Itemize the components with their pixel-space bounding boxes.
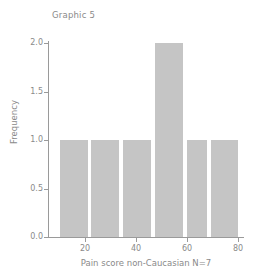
y-tick-label: 2.0 [19, 38, 43, 47]
histogram-bar [155, 43, 183, 237]
plot-area: 0.00.51.01.52.0 20406080 Frequency Pain … [0, 0, 260, 279]
y-tick [44, 140, 48, 141]
x-tick [136, 238, 137, 242]
x-tick-label: 80 [226, 244, 250, 253]
x-tick [187, 238, 188, 242]
y-axis-line [48, 41, 49, 238]
histogram-bar [211, 140, 238, 237]
histogram-bar [91, 140, 119, 237]
y-tick-label: 0.5 [19, 184, 43, 193]
x-tick-label: 40 [124, 244, 148, 253]
y-tick [44, 237, 48, 238]
histogram-bar [60, 140, 88, 237]
x-axis-title: Pain score non-Caucasian N=7 [48, 258, 244, 268]
histogram-bar [123, 140, 151, 237]
y-tick [44, 92, 48, 93]
x-tick-label: 20 [73, 244, 97, 253]
x-tick-label: 60 [175, 244, 199, 253]
chart-container: Graphic 5 0.00.51.01.52.0 20406080 Frequ… [0, 0, 260, 279]
x-tick [85, 238, 86, 242]
y-tick-label: 0.0 [19, 232, 43, 241]
x-axis-line [48, 237, 244, 238]
x-tick [238, 238, 239, 242]
histogram-bar [187, 140, 207, 237]
y-tick-label: 1.0 [19, 135, 43, 144]
y-tick [44, 43, 48, 44]
y-tick-label: 1.5 [19, 87, 43, 96]
y-axis-title: Frequency [9, 87, 19, 157]
y-tick [44, 189, 48, 190]
